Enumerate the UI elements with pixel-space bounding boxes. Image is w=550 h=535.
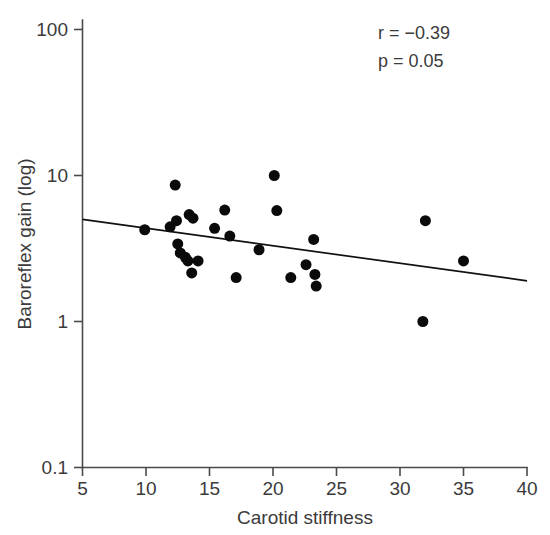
data-point — [186, 267, 197, 278]
x-tick-label-5: 5 — [77, 478, 88, 499]
y-tick-label-10: 10 — [47, 165, 68, 186]
data-point — [209, 223, 220, 234]
y-tick-label-1: 1 — [57, 311, 68, 332]
data-point — [187, 213, 198, 224]
data-point — [170, 180, 181, 191]
data-point — [269, 170, 280, 181]
x-axis-title: Carotid stiffness — [237, 507, 373, 528]
x-axis-tick-labels: 5 10 15 20 25 30 35 40 — [77, 478, 537, 499]
data-point — [420, 215, 431, 226]
x-tick-label-35: 35 — [453, 478, 474, 499]
data-point — [171, 215, 182, 226]
data-point — [301, 259, 312, 270]
y-axis-tick-labels: 100 10 1 0.1 — [36, 19, 68, 478]
x-tick-label-40: 40 — [516, 478, 537, 499]
y-tick-label-100: 100 — [36, 19, 68, 40]
x-tick-label-20: 20 — [262, 478, 283, 499]
data-point — [311, 281, 322, 292]
data-point — [271, 205, 282, 216]
y-axis-ticks — [74, 30, 83, 468]
data-point — [285, 272, 296, 283]
data-point — [231, 272, 242, 283]
x-tick-label-30: 30 — [389, 478, 410, 499]
data-point — [254, 244, 265, 255]
axis-spines — [83, 20, 528, 468]
data-point — [417, 316, 428, 327]
data-point — [182, 255, 193, 266]
y-axis-title: Baroreflex gain (log) — [14, 158, 35, 329]
data-point — [219, 205, 230, 216]
data-points-group — [139, 170, 469, 327]
data-point — [309, 269, 320, 280]
scatter-plot-figure: 100 10 1 0.1 5 10 15 20 25 30 35 40 — [0, 0, 550, 535]
correlation-annotation: r = −0.39 — [378, 23, 450, 43]
data-point — [458, 255, 469, 266]
x-tick-label-25: 25 — [326, 478, 347, 499]
x-axis-ticks — [83, 468, 528, 477]
data-point — [193, 255, 204, 266]
data-point — [308, 234, 319, 245]
data-point — [224, 231, 235, 242]
x-tick-label-10: 10 — [135, 478, 156, 499]
x-tick-label-15: 15 — [199, 478, 220, 499]
p-value-annotation: p = 0.05 — [378, 51, 444, 71]
plot-canvas: 100 10 1 0.1 5 10 15 20 25 30 35 40 — [0, 0, 550, 535]
data-point — [139, 224, 150, 235]
y-tick-label-0.1: 0.1 — [42, 457, 68, 478]
